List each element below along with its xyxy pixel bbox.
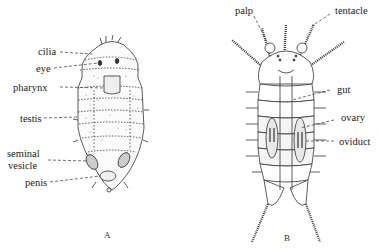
label-seminal-vesicle-line1: seminal [7,148,40,159]
label-seminal-vesicle-line2: vesicle [8,160,37,171]
label-penis: penis [25,177,47,188]
diagram-canvas [0,0,379,252]
label-tentacle: tentacle [335,5,368,16]
label-palp: palp [235,5,253,16]
label-cilia: cilia [38,46,56,57]
caption-a: A [104,230,111,240]
label-gut: gut [337,84,350,95]
label-eye: eye [36,63,51,74]
label-oviduct: oviduct [339,136,371,147]
figure-a-body [73,35,149,192]
caption-b: B [284,233,290,243]
label-pharynx: pharynx [13,82,47,93]
label-testis: testis [20,113,42,124]
figure-b-body [232,24,344,242]
label-ovary: ovary [341,112,365,123]
